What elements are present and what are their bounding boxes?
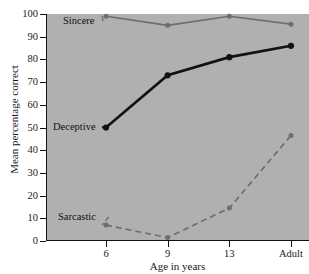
y-tick-mark <box>40 14 46 15</box>
series-line-deceptive <box>106 46 291 128</box>
x-tick-mark <box>106 241 107 247</box>
series-label-sarcastic: Sarcastic <box>58 212 96 223</box>
x-tick-mark <box>168 241 169 247</box>
y-tick-mark <box>40 150 46 151</box>
series-label-sincere: Sincere <box>63 16 95 27</box>
chart-figure: 0102030405060708090100 6913Adult Sincere… <box>0 0 309 274</box>
x-tick-label: 9 <box>146 249 190 260</box>
y-tick-label: 0 <box>8 236 38 247</box>
leader-line-sincere <box>102 16 103 21</box>
data-point-sincere-6 <box>104 14 109 19</box>
y-tick-mark <box>40 241 46 242</box>
x-tick-mark <box>229 241 230 247</box>
y-tick-mark <box>40 218 46 219</box>
data-point-sarcastic-6 <box>104 223 109 228</box>
data-point-deceptive-13 <box>226 54 232 60</box>
y-tick-label: 10 <box>8 213 38 224</box>
x-tick-label: 6 <box>84 249 128 260</box>
data-point-sarcastic-13 <box>227 206 232 211</box>
leader-line-deceptive <box>102 127 104 128</box>
series-line-sarcastic <box>106 135 291 237</box>
x-tick-label: Adult <box>269 249 309 260</box>
y-axis-title: Mean percentage correct <box>9 40 20 200</box>
data-point-sarcastic-Adult <box>289 133 294 138</box>
data-point-deceptive-9 <box>165 72 171 78</box>
y-tick-mark <box>40 82 46 83</box>
y-tick-mark <box>40 105 46 106</box>
series-line-sincere <box>106 16 291 25</box>
x-tick-label: 13 <box>207 249 251 260</box>
y-tick-mark <box>40 196 46 197</box>
series-label-deceptive: Deceptive <box>53 122 96 133</box>
data-point-sincere-Adult <box>289 22 294 27</box>
y-tick-mark <box>40 173 46 174</box>
data-point-sincere-9 <box>165 23 170 28</box>
chart-plot <box>0 0 309 274</box>
data-point-deceptive-Adult <box>288 43 294 49</box>
x-tick-mark <box>291 241 292 247</box>
data-point-sarcastic-9 <box>165 235 170 240</box>
y-tick-mark <box>40 37 46 38</box>
x-axis-title: Age in years <box>46 261 309 272</box>
y-tick-mark <box>40 59 46 60</box>
data-point-sincere-13 <box>227 14 232 19</box>
y-tick-label: 100 <box>8 9 38 20</box>
y-tick-mark <box>40 128 46 129</box>
